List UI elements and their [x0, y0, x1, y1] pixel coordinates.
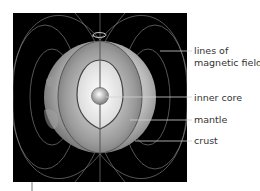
label-text: magnetic field — [194, 57, 260, 69]
inner-core — [92, 88, 109, 105]
label-magnetic-field: lines of magnetic field — [194, 45, 260, 69]
label-inner-core: inner core — [194, 92, 242, 104]
label-text: lines of — [194, 45, 260, 57]
label-mantle: mantle — [194, 114, 227, 126]
label-crust: crust — [194, 135, 218, 147]
earth-diagram: lines of magnetic field inner core mantl… — [0, 0, 260, 191]
